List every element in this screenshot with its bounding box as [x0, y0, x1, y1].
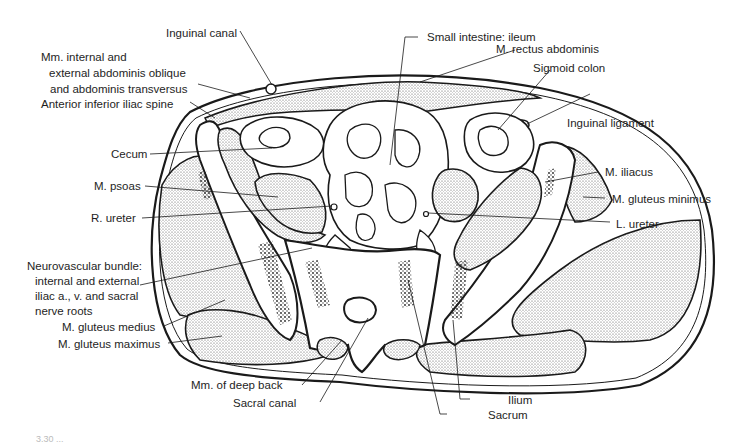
label-ilium: Ilium: [508, 393, 532, 407]
label-sacral-canal: Sacral canal: [233, 396, 296, 410]
label-cecum: Cecum: [111, 147, 147, 161]
small-intestine-ileum: [323, 101, 448, 249]
label-neurovascular-line1: Neurovascular bundle:: [27, 259, 142, 273]
label-psoas: M. psoas: [94, 179, 141, 193]
label-gluteus-maximus: M. gluteus maximus: [58, 337, 160, 351]
label-abdominal-obliques-line1: Mm. internal and: [41, 50, 127, 64]
label-abdominal-obliques-line3: and abdominis transversus: [50, 82, 187, 96]
label-anterior-inferior-iliac-spine: Anterior inferior iliac spine: [41, 97, 173, 111]
label-gluteus-minimus: M. gluteus minimus: [612, 192, 711, 206]
label-gluteus-medius: M. gluteus medius: [62, 320, 155, 334]
label-abdominal-obliques-line2: external abdominis oblique: [49, 66, 186, 80]
label-rectus-abdominis: M. rectus abdominis: [496, 42, 599, 56]
sacral-canal: [344, 298, 376, 323]
label-sigmoid-colon: Sigmoid colon: [533, 61, 605, 75]
label-l-ureter: L. ureter: [616, 217, 659, 231]
label-r-ureter: R. ureter: [91, 211, 136, 225]
inguinal-canal: [266, 84, 276, 94]
label-deep-back-muscles: Mm. of deep back: [191, 378, 282, 392]
label-iliacus: M. iliacus: [605, 165, 653, 179]
label-neurovascular-line3: iliac a., v. and sacral: [35, 289, 138, 303]
l-ureter: [424, 212, 429, 217]
gluteus-maximus-left: [417, 330, 586, 377]
r-ureter: [331, 204, 337, 210]
label-inguinal-canal: Inguinal canal: [166, 26, 237, 40]
label-neurovascular-line4: nerve roots: [35, 304, 93, 318]
label-neurovascular-line2: internal and external: [35, 274, 139, 288]
figure-caption: 3.30 ...: [36, 434, 64, 442]
label-sacrum: Sacrum: [488, 408, 528, 422]
label-inguinal-ligament: Inguinal ligament: [567, 116, 654, 130]
